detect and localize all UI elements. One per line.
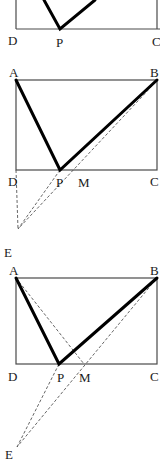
segment-a-p-b: [16, 278, 157, 364]
label-c: C: [150, 174, 159, 189]
dashed-p-e: [17, 364, 59, 447]
label-e: E: [4, 245, 12, 260]
label-p: P: [56, 35, 63, 50]
label-m: M: [78, 175, 90, 190]
figure-3: A B D P M C E: [5, 263, 159, 462]
label-p: P: [56, 175, 63, 190]
label-b: B: [150, 65, 159, 80]
segment-a-p-b: [44, 0, 95, 29]
label-c: C: [152, 34, 160, 49]
label-d: D: [8, 33, 17, 48]
label-a: A: [9, 65, 19, 80]
figure-1: D P C: [8, 0, 160, 50]
dashed-p-e: [18, 170, 60, 229]
dashed-b-m-e: [18, 86, 152, 229]
dashed-b-m-e: [17, 284, 152, 447]
figure-2: A B D P M C E: [4, 65, 159, 260]
label-b: B: [150, 263, 159, 278]
label-m: M: [79, 370, 91, 385]
label-c: C: [150, 369, 159, 384]
label-d: D: [8, 174, 17, 189]
label-p: P: [57, 370, 64, 385]
label-a: A: [9, 263, 19, 278]
label-d: D: [8, 369, 17, 384]
geometry-diagram: D P C A B D P M C E A B D P M C E: [0, 0, 160, 463]
label-e: E: [5, 447, 13, 462]
